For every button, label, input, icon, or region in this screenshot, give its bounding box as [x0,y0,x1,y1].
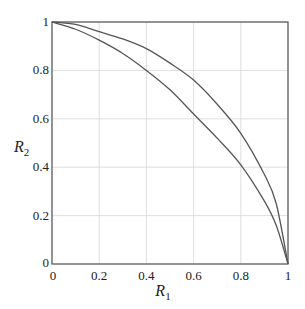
curve-outer-curve [52,22,288,264]
x-axis-label: R1 [154,282,170,302]
x-tick-label: 0.4 [138,268,155,283]
plot-frame [52,22,288,264]
y-tick-label: 0.2 [33,208,49,223]
y-tick-labels: 00.20.40.60.81 [33,14,50,270]
chart: 00.20.40.60.81 00.20.40.60.81 R1 R2 [0,0,305,309]
y-axis-label: R2 [13,138,29,158]
y-tick-label: 0.6 [33,111,50,126]
y-tick-label: 0.8 [33,62,49,77]
x-tick-label: 0.6 [185,268,202,283]
data-curves [52,22,288,264]
x-tick-labels: 00.20.40.60.81 [50,268,292,283]
y-tick-label: 0 [43,255,50,270]
curve-inner-curve [52,22,288,264]
x-tick-label: 0 [50,268,57,283]
x-tick-label: 1 [285,268,292,283]
grid-lines [52,22,288,264]
x-tick-label: 0.8 [233,268,249,283]
y-tick-label: 1 [43,14,50,29]
x-tick-label: 0.2 [91,268,107,283]
y-tick-label: 0.4 [33,159,50,174]
